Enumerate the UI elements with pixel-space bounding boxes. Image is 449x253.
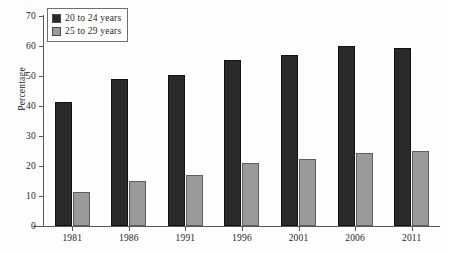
x-axis-tick-label: 1986	[101, 233, 158, 243]
bar-2006-series-1	[338, 46, 355, 226]
bar-1991-series-1	[168, 75, 185, 227]
y-axis-tick-label: 10	[26, 190, 36, 202]
x-axis-tick-mark	[412, 226, 413, 231]
bar-group	[214, 16, 271, 226]
y-axis-tick: 10	[0, 190, 44, 202]
y-axis-title: Percentage	[17, 19, 27, 159]
x-axis-tick-mark	[355, 226, 356, 231]
x-axis-tick-mark	[299, 226, 300, 231]
x-axis-tick-label: 2001	[270, 233, 327, 243]
y-axis-tick-label: 60	[26, 40, 36, 52]
bar-1991-series-2	[186, 175, 203, 226]
x-axis-tick: 1981	[44, 226, 101, 252]
y-axis-tick: 0	[0, 220, 44, 232]
bar-1986-series-2	[129, 181, 146, 226]
legend-swatch-gray	[52, 27, 61, 36]
bar-group	[157, 16, 214, 226]
x-axis-tick-label: 2011	[383, 233, 440, 243]
y-axis-tick-label: 30	[26, 130, 36, 142]
legend-item-label: 20 to 24 years	[65, 12, 121, 25]
y-axis-tick-label: 20	[26, 160, 36, 172]
bar-2011-series-2	[412, 151, 429, 226]
x-axis-tick: 1996	[214, 226, 271, 252]
legend-swatch-dark	[52, 14, 61, 23]
legend-item: 25 to 29 years	[52, 25, 121, 38]
x-axis-tick-label: 1981	[44, 233, 101, 243]
y-axis-tick-label: 0	[31, 220, 36, 232]
bar-1996-series-1	[224, 60, 241, 227]
y-axis-tick-label: 50	[26, 70, 36, 82]
y-axis-tick: 20	[0, 160, 44, 172]
x-axis-tick-mark	[185, 226, 186, 231]
bar-group	[270, 16, 327, 226]
legend-item: 20 to 24 years	[52, 12, 121, 25]
x-axis-ticks: 1981198619911996200120062011	[44, 226, 440, 252]
bar-1981-series-1	[55, 102, 72, 227]
x-axis-tick-label: 1991	[157, 233, 214, 243]
legend-item-label: 25 to 29 years	[65, 25, 121, 38]
x-axis-tick-label: 2006	[327, 233, 384, 243]
chart-legend: 20 to 24 years25 to 29 years	[47, 8, 128, 42]
x-axis-tick: 2001	[270, 226, 327, 252]
bar-2006-series-2	[356, 153, 373, 227]
x-axis-tick: 1986	[101, 226, 158, 252]
bar-group	[101, 16, 158, 226]
bar-2001-series-2	[299, 159, 316, 227]
x-axis-tick: 1991	[157, 226, 214, 252]
x-axis-tick-mark	[72, 226, 73, 231]
bar-2001-series-1	[281, 55, 298, 226]
x-axis-tick-label: 1996	[214, 233, 271, 243]
bar-1981-series-2	[73, 192, 90, 227]
bar-group	[383, 16, 440, 226]
x-axis-tick: 2011	[383, 226, 440, 252]
y-axis-tick-label: 70	[26, 10, 36, 22]
bar-1986-series-1	[111, 79, 128, 226]
bar-chart-figure: 010203040506070 Percentage 1981198619911…	[0, 0, 449, 253]
bar-group	[327, 16, 384, 226]
bar-2011-series-1	[394, 48, 411, 227]
bar-group	[44, 16, 101, 226]
y-axis-tick-label: 40	[26, 100, 36, 112]
x-axis-tick: 2006	[327, 226, 384, 252]
plot-area	[44, 16, 440, 226]
x-axis-tick-mark	[129, 226, 130, 231]
bar-1996-series-2	[242, 163, 259, 226]
x-axis-tick-mark	[242, 226, 243, 231]
